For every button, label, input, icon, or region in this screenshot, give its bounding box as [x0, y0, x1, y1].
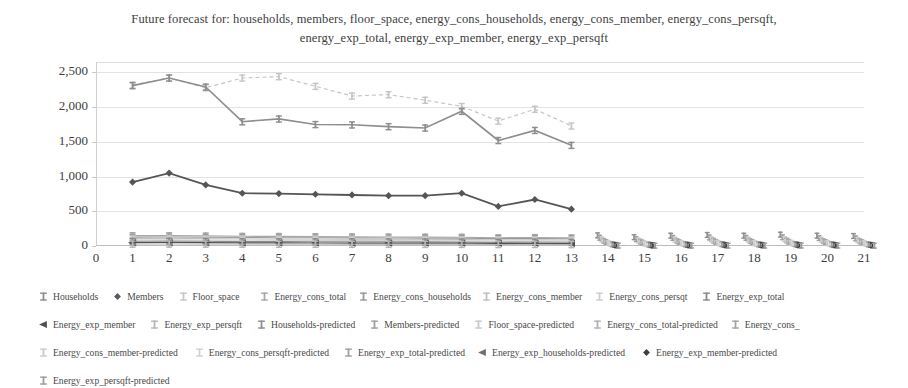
legend-item-energy-cons-member-predicted[interactable]: Energy_cons_member-predicted: [38, 347, 178, 358]
data-point-marker-diamond: [239, 190, 246, 197]
data-point-marker-diamond: [568, 206, 575, 213]
x-axis-tick-label: 1: [120, 250, 146, 266]
legend-item-energy-cons-total-predicted[interactable]: Energy_cons_total-predicted: [592, 319, 718, 330]
data-point-marker-triangle-left: [478, 349, 486, 356]
legend-item-energy-exp-total[interactable]: Energy_exp_total: [701, 291, 784, 302]
legend-item-label: Energy_cons_households: [373, 291, 471, 302]
marker-plus-icon: [730, 319, 741, 330]
x-axis-tick-label: 13: [558, 250, 584, 266]
x-axis-tick-label: 5: [266, 250, 292, 266]
data-point-marker-plus: [180, 292, 187, 300]
x-axis-tick-label: 21: [851, 250, 877, 266]
chart-title-line-1: Future forecast for: households, members…: [0, 10, 908, 29]
y-axis-tick-label: 1,000: [28, 168, 88, 184]
data-point-marker-diamond: [531, 196, 538, 203]
x-axis-tick-label: 20: [814, 250, 840, 266]
marker-plus-icon: [38, 375, 49, 386]
predicted-series-Energy_cons_households-predicted: [604, 239, 865, 246]
marker-plus-icon: [178, 291, 189, 302]
legend-item-energy-exp-persqft-predicted[interactable]: Energy_exp_persqft-predicted: [38, 375, 170, 386]
data-point-marker-diamond: [458, 190, 465, 197]
data-point-marker-plus: [262, 292, 269, 300]
data-point-marker-diamond: [166, 169, 173, 176]
chart-legend: HouseholdsMembersFloor_spaceEnergy_cons_…: [38, 282, 904, 388]
marker-plus-icon: [38, 291, 49, 302]
x-axis-tick-label: 11: [485, 250, 511, 266]
data-point-marker-diamond: [129, 179, 136, 186]
data-point-marker-diamond: [202, 181, 209, 188]
y-axis-tick-label: 2,500: [28, 63, 88, 79]
legend-item-label: Members-predicted: [384, 319, 459, 330]
x-axis-tick-label: 18: [741, 250, 767, 266]
legend-item-energy-cons-persqt[interactable]: Energy_cons_persqt: [594, 291, 687, 302]
chart-page: Future forecast for: households, members…: [0, 0, 908, 388]
x-axis-tick-label: 6: [302, 250, 328, 266]
marker-plus-icon: [38, 347, 49, 358]
legend-item-energy-exp-households-predicted[interactable]: Energy_exp_households-predicted: [477, 347, 625, 358]
legend-item-energy-cons-[interactable]: Energy_cons_: [730, 319, 800, 330]
legend-item-label: Energy_cons_member-predicted: [53, 347, 178, 358]
x-axis-tick-label: 7: [339, 250, 365, 266]
legend-item-label: Energy_cons_total-predicted: [607, 319, 718, 330]
legend-item-floor-space-predicted[interactable]: Floor_space-predicted: [473, 319, 574, 330]
data-point-marker-diamond: [348, 191, 355, 198]
legend-item-label: Energy_cons_persqft-predicted: [209, 347, 329, 358]
x-axis-tick-label: 8: [376, 250, 402, 266]
x-axis-tick-label: 14: [595, 250, 621, 266]
legend-item-members-predicted[interactable]: Members-predicted: [369, 319, 459, 330]
data-point-marker-plus: [40, 348, 47, 356]
legend-item-label: Households: [53, 291, 98, 302]
legend-row: HouseholdsMembersFloor_spaceEnergy_cons_…: [38, 282, 904, 310]
data-point-marker-diamond: [643, 349, 650, 356]
data-point-marker-plus: [532, 106, 538, 113]
legend-item-label: Energy_cons_: [745, 319, 800, 330]
y-axis-tick-label: 2,000: [28, 98, 88, 114]
marker-plus-icon: [343, 347, 354, 358]
marker-diamond-icon: [641, 347, 652, 358]
x-axis-tick-label: 3: [193, 250, 219, 266]
marker-triangle-left-icon: [477, 347, 488, 358]
x-axis-tick-label: 15: [632, 250, 658, 266]
data-point-marker-plus: [568, 142, 574, 149]
legend-item-label: Energy_exp_persqft: [164, 319, 242, 330]
legend-item-households[interactable]: Households: [38, 291, 98, 302]
x-axis-tick-label: 17: [705, 250, 731, 266]
data-point-marker-diamond: [495, 203, 502, 210]
legend-item-energy-exp-persqft[interactable]: Energy_exp_persqft: [149, 319, 242, 330]
legend-item-energy-cons-households[interactable]: Energy_cons_households: [358, 291, 471, 302]
marker-plus-icon: [473, 319, 484, 330]
marker-plus-icon: [259, 291, 270, 302]
data-point-marker-plus: [732, 320, 739, 328]
marker-plus-icon: [481, 291, 492, 302]
marker-plus-icon: [369, 319, 380, 330]
legend-item-energy-cons-member[interactable]: Energy_cons_member: [481, 291, 582, 302]
legend-item-energy-exp-member-predicted[interactable]: Energy_exp_member-predicted: [641, 347, 777, 358]
legend-item-label: Energy_exp_member: [53, 319, 135, 330]
data-point-marker-triangle-left: [39, 321, 47, 328]
x-axis-tick-label: 16: [668, 250, 694, 266]
legend-item-members[interactable]: Members: [112, 291, 163, 302]
legend-item-energy-exp-member[interactable]: Energy_exp_member: [38, 319, 135, 330]
legend-item-energy-cons-persqft-predicted[interactable]: Energy_cons_persqft-predicted: [194, 347, 329, 358]
chart-title: Future forecast for: households, members…: [0, 10, 908, 48]
y-axis-tick-label: 0: [28, 237, 88, 253]
data-point-marker-plus: [568, 122, 574, 129]
data-point-marker-plus: [196, 348, 203, 356]
data-point-marker-diamond: [422, 192, 429, 199]
marker-plus-icon: [149, 319, 160, 330]
data-point-marker-plus: [360, 292, 367, 300]
predicted-series-Energy_exp_persqft-predicted: [616, 242, 877, 248]
marker-plus-icon: [256, 319, 267, 330]
x-axis-tick-label: 4: [229, 250, 255, 266]
legend-item-energy-cons-total[interactable]: Energy_cons_total: [259, 291, 346, 302]
legend-item-floor-space[interactable]: Floor_space: [178, 291, 240, 302]
legend-item-energy-exp-total-predicted[interactable]: Energy_exp_total-predicted: [343, 347, 465, 358]
x-axis-tick-label: 10: [449, 250, 475, 266]
legend-item-label: Floor_space: [193, 291, 240, 302]
legend-item-label: Floor_space-predicted: [488, 319, 574, 330]
x-axis-tick-label: 9: [412, 250, 438, 266]
data-point-marker-plus: [596, 292, 603, 300]
y-axis-tick-label: 500: [28, 202, 88, 218]
legend-row: Energy_cons_member-predictedEnergy_cons_…: [38, 338, 904, 366]
legend-item-households-predicted[interactable]: Households-predicted: [256, 319, 355, 330]
